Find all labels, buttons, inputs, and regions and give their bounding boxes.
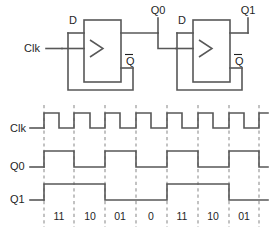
flipflop-1: D Q [176, 14, 248, 90]
state-label: 0 [148, 210, 154, 222]
clk-source-label: Clk [24, 42, 40, 54]
waveform-q0-label: Q0 [10, 160, 25, 172]
waveform-q1-label: Q1 [10, 193, 25, 205]
flipflop-0-d-label: D [69, 14, 77, 26]
waveform-q1-trace [44, 184, 268, 200]
flipflop-0: D Q [62, 14, 158, 90]
state-label: 11 [177, 210, 188, 222]
waveform-q0: Q0 [10, 151, 268, 172]
flipflop-1-qbar-label: Q [235, 55, 244, 67]
state-label: 01 [238, 210, 250, 222]
q0-node: Q0 [151, 4, 176, 49]
q0-label: Q0 [151, 4, 166, 16]
waveform-q0-trace [44, 151, 268, 167]
circuit-timing-figure: D Q Clk Q0 D Q [0, 0, 270, 231]
flipflop-1-body [193, 20, 230, 82]
state-label-row: 11 10 01 0 11 10 01 [54, 210, 250, 222]
q1-node: Q1 [241, 4, 256, 33]
q1-label: Q1 [241, 4, 256, 16]
figure-root: D Q Clk Q0 D Q [0, 0, 270, 231]
state-label: 11 [54, 210, 65, 222]
q0-to-ff1-d-wire [158, 33, 176, 49]
flipflop-0-qbar-label: Q [126, 55, 135, 67]
waveform-clk-label: Clk [10, 122, 26, 134]
state-label: 10 [207, 210, 219, 222]
flipflop-0-body [84, 20, 121, 82]
state-label: 10 [84, 210, 96, 222]
waveform-clk-trace [44, 113, 268, 128]
state-label: 01 [114, 210, 126, 222]
flipflop-1-d-label: D [178, 14, 186, 26]
